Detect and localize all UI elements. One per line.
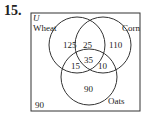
region-wheat-corn: 25	[83, 40, 93, 50]
universe-label: U	[33, 13, 40, 23]
wheat-label: Wheat	[33, 23, 57, 33]
region-all-three: 35	[84, 55, 94, 65]
oats-label: Oats	[108, 96, 125, 106]
venn-diagram: U Wheat Corn Oats 125 25 110 15 35 10 90…	[0, 0, 146, 122]
region-none: 90	[35, 100, 45, 110]
region-corn-oats: 10	[98, 61, 108, 71]
region-corn-only: 110	[109, 40, 123, 50]
corn-label: Corn	[122, 23, 141, 33]
region-wheat-oats: 15	[71, 61, 81, 71]
region-oats-only: 90	[84, 84, 94, 94]
region-wheat-only: 125	[63, 40, 77, 50]
